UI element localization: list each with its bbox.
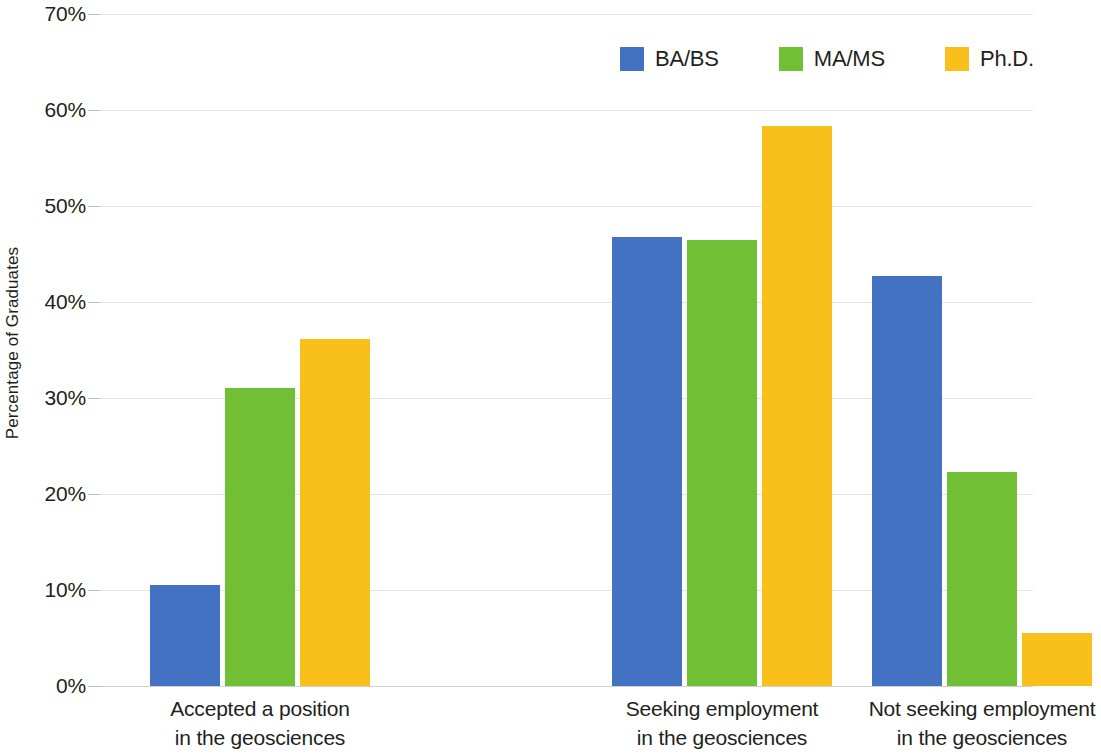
y-tick-label-50%: 50% <box>14 194 86 218</box>
x-axis-category-labels: Accepted a position in the geosciences S… <box>100 694 1033 755</box>
y-axis-title-text: Percentage of Graduates <box>3 247 23 439</box>
legend-item-ma-ms[interactable]: MA/MS <box>779 46 885 72</box>
legend-item-ba-bs[interactable]: BA/BS <box>620 46 719 72</box>
x-axis-label-line-1: Accepted a position <box>60 694 460 723</box>
y-tick-mark <box>88 494 100 495</box>
bar-phd-group2[interactable] <box>762 126 832 686</box>
legend-label-phd: Ph.D. <box>980 46 1034 72</box>
y-tick-label-60%: 60% <box>14 98 86 122</box>
bar-phd-group3[interactable] <box>1022 633 1092 686</box>
bar-babs-group3[interactable] <box>872 276 942 686</box>
gridline-60% <box>100 110 1033 111</box>
gridline-50% <box>100 206 1033 207</box>
legend-item-phd[interactable]: Ph.D. <box>945 46 1034 72</box>
y-tick-mark <box>88 110 100 111</box>
bar-mams-group2[interactable] <box>687 240 757 686</box>
x-axis-label-not-seeking-employment: Not seeking employment in the geoscience… <box>782 694 1101 752</box>
bar-babs-group2[interactable] <box>612 237 682 686</box>
y-tick-mark <box>88 398 100 399</box>
bar-babs-group1[interactable] <box>150 585 220 686</box>
x-axis-label-accepted-a-position: Accepted a position in the geosciences <box>60 694 460 752</box>
x-axis-label-line-2: in the geosciences <box>782 723 1101 752</box>
legend-swatch-icon-phd <box>945 47 969 71</box>
legend: BA/BS MA/MS Ph.D. <box>620 46 1034 72</box>
y-tick-label-20%: 20% <box>14 482 86 506</box>
gridline-0% <box>100 686 1033 687</box>
y-tick-label-70%: 70% <box>14 2 86 26</box>
y-tick-label-40%: 40% <box>14 290 86 314</box>
gridline-70% <box>100 14 1033 15</box>
legend-label-ba-bs: BA/BS <box>655 46 719 72</box>
bar-phd-group1[interactable] <box>300 339 370 686</box>
legend-swatch-icon-ma-ms <box>779 47 803 71</box>
legend-swatch-icon-ba-bs <box>620 47 644 71</box>
bar-mams-group1[interactable] <box>225 388 295 686</box>
bar-mams-group3[interactable] <box>947 472 1017 686</box>
y-tick-mark <box>88 14 100 15</box>
y-tick-label-10%: 10% <box>14 578 86 602</box>
x-axis-label-line-2: in the geosciences <box>60 723 460 752</box>
y-tick-mark <box>88 590 100 591</box>
plot-area <box>100 14 1033 686</box>
y-tick-label-30%: 30% <box>14 386 86 410</box>
x-axis-label-line-1: Not seeking employment <box>782 694 1101 723</box>
y-tick-mark <box>88 686 100 687</box>
y-tick-mark <box>88 206 100 207</box>
legend-label-ma-ms: MA/MS <box>814 46 885 72</box>
y-tick-mark <box>88 302 100 303</box>
